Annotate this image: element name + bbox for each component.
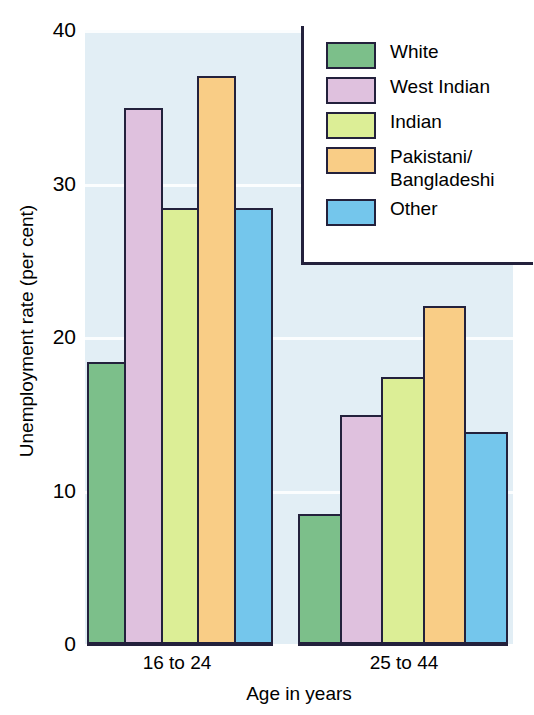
y-tick-label-30: 30	[30, 173, 76, 194]
legend-item-1: West Indian	[326, 75, 533, 104]
bar-other-16-to-24	[234, 208, 273, 644]
legend-label-1: West Indian	[390, 75, 490, 98]
bar-pakistani-bangladeshi-16-to-24	[197, 76, 236, 644]
y-tick-label-10: 10	[30, 480, 76, 501]
legend-item-2: Indian	[326, 110, 533, 139]
bar-indian-16-to-24	[161, 208, 200, 644]
bar-indian-25-to-44	[381, 377, 425, 644]
bar-white-16-to-24	[87, 362, 126, 644]
legend-swatch-icon-0	[326, 42, 376, 69]
x-axis-label: Age in years	[85, 683, 513, 705]
x-axis-ticks: 16 to 24 25 to 44	[85, 652, 513, 680]
legend: WhiteWest IndianIndianPakistani/ Banglad…	[301, 26, 533, 265]
legend-item-3: Pakistani/ Bangladeshi	[326, 145, 533, 191]
y-axis-ticks: 010203040	[20, 0, 76, 715]
bar-chart: Unemployment rate (per cent) 010203040 1…	[0, 0, 534, 715]
legend-swatch-icon-4	[326, 199, 376, 226]
y-tick-label-0: 0	[30, 633, 76, 654]
x-tick-label-0: 16 to 24	[77, 652, 277, 674]
legend-swatch-icon-2	[326, 112, 376, 139]
bar-group-16-to-24	[87, 30, 273, 644]
legend-swatch-icon-3	[326, 147, 376, 174]
bar-white-25-to-44	[298, 514, 342, 644]
legend-label-0: White	[390, 40, 439, 63]
y-tick-label-20: 20	[30, 326, 76, 347]
bar-other-25-to-44	[464, 432, 508, 644]
legend-item-4: Other	[326, 197, 533, 226]
bar-pakistani-bangladeshi-25-to-44	[423, 306, 467, 644]
legend-item-0: White	[326, 40, 533, 69]
legend-label-3: Pakistani/ Bangladeshi	[390, 145, 495, 191]
bar-west-indian-16-to-24	[124, 108, 163, 644]
bar-west-indian-25-to-44	[340, 415, 384, 644]
y-tick-label-40: 40	[30, 19, 76, 40]
x-tick-label-1: 25 to 44	[300, 652, 508, 674]
legend-label-4: Other	[390, 197, 438, 220]
legend-swatch-icon-1	[326, 77, 376, 104]
legend-label-2: Indian	[390, 110, 442, 133]
